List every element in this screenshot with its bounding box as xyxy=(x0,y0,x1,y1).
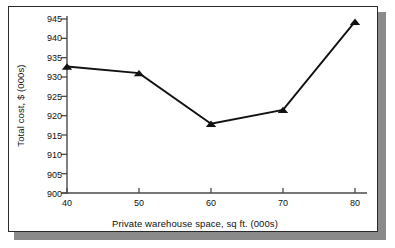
y-axis-ticks xyxy=(61,19,67,193)
x-axis-title: Private warehouse space, sq ft. (000s) xyxy=(0,218,390,229)
y-tick-label-930: 930 xyxy=(28,72,62,82)
y-tick-label-910: 910 xyxy=(28,150,62,160)
y-tick-label-905: 905 xyxy=(28,170,62,180)
chart-figure: 945 940 935 930 925 920 915 910 905 900 … xyxy=(0,0,395,248)
y-tick-label-935: 935 xyxy=(28,53,62,63)
x-tick-label-70: 70 xyxy=(268,198,298,208)
data-point-markers xyxy=(62,19,360,127)
x-tick-label-50: 50 xyxy=(124,198,154,208)
y-tick-label-945: 945 xyxy=(28,14,62,24)
x-tick-label-40: 40 xyxy=(52,198,82,208)
y-tick-label-920: 920 xyxy=(28,111,62,121)
y-axis-title: Total cost, $ (000s) xyxy=(15,26,26,186)
y-tick-label-915: 915 xyxy=(28,131,62,141)
x-axis-ticks xyxy=(67,188,355,193)
y-tick-label-940: 940 xyxy=(28,33,62,43)
data-series-line xyxy=(67,22,355,124)
x-tick-label-80: 80 xyxy=(340,198,370,208)
y-tick-label-925: 925 xyxy=(28,92,62,102)
data-point-marker xyxy=(350,19,360,25)
x-tick-label-60: 60 xyxy=(196,198,226,208)
